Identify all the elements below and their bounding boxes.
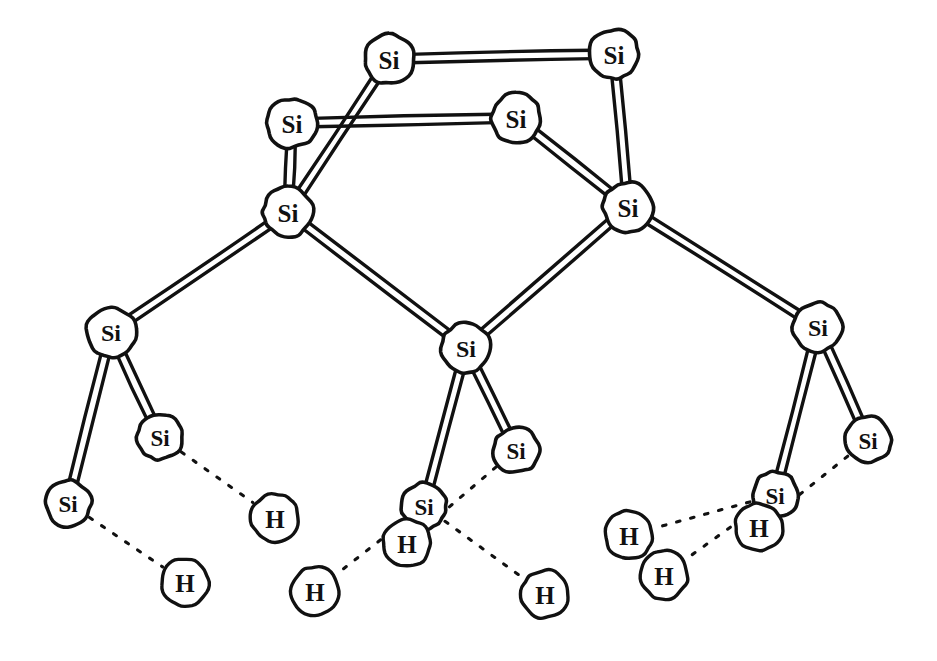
silicon-atom-si-row5-midleft[interactable]: Si: [45, 480, 92, 528]
silicon-atom-si-row4-right[interactable]: Si: [792, 302, 843, 353]
covalent-bond: [116, 348, 157, 422]
atom-circle: [590, 29, 639, 79]
hydrogen-atom-h-right-overlap[interactable]: H: [735, 503, 783, 551]
hydrogen-bond: [181, 452, 253, 503]
atom-circle: [290, 567, 339, 616]
hydrogen-atom-h-left-lower[interactable]: H: [162, 559, 210, 606]
hydrogen-bond: [445, 521, 523, 578]
hydrogen-atom-h-left-upper[interactable]: H: [250, 494, 298, 543]
atom-circle: [162, 559, 210, 606]
silicon-atom-si-row5-center[interactable]: Si: [493, 427, 540, 472]
atom-circle: [493, 427, 540, 472]
atom-circle: [640, 550, 688, 599]
covalent-bond: [612, 74, 631, 188]
hydrogen-bond: [90, 518, 163, 567]
covalent-bond: [529, 127, 615, 198]
covalent-bond: [425, 366, 465, 490]
covalent-bond: [68, 350, 110, 486]
atom-circle: [45, 480, 92, 528]
atom-circle: [136, 415, 182, 460]
silicon-atom-si-top-left[interactable]: Si: [365, 33, 414, 83]
hydrogen-atom-h-center-left[interactable]: H: [290, 567, 339, 616]
hydrogen-atom-h-right-upper[interactable]: H: [605, 511, 652, 559]
atom-circle: [441, 322, 491, 373]
silicon-atom-si-row4-left[interactable]: Si: [86, 307, 137, 358]
atom-layer: SiSiSiSiSiSiSiSiSiSiSiSiSiSiSiHHHHHHHH: [45, 29, 891, 618]
atom-circle: [602, 182, 654, 233]
atom-circle: [86, 307, 137, 358]
covalent-bond: [643, 214, 804, 320]
bond-layer: [68, 50, 864, 578]
hydrogen-atom-h-center-right[interactable]: H: [520, 569, 568, 618]
atom-circle: [250, 494, 298, 543]
covalent-bond: [822, 344, 864, 426]
atom-circle: [520, 569, 568, 618]
silicon-atom-si-top-right[interactable]: Si: [590, 29, 639, 79]
silicon-atom-si-row2-right[interactable]: Si: [491, 92, 541, 143]
atom-circle: [365, 33, 414, 83]
hydrogen-atom-h-center-overlap[interactable]: H: [383, 519, 430, 566]
covalent-bond: [301, 221, 452, 339]
atom-circle: [267, 99, 318, 148]
atom-circle: [605, 511, 652, 559]
silicon-atom-si-row3-right[interactable]: Si: [602, 182, 654, 233]
atom-circle: [735, 503, 783, 551]
silicon-atom-si-row4-center[interactable]: Si: [441, 322, 491, 373]
covalent-bond: [125, 220, 274, 325]
hydrogen-atom-h-right-lower[interactable]: H: [640, 550, 688, 599]
molecule-canvas: SiSiSiSiSiSiSiSiSiSiSiSiSiSiSiHHHHHHHH: [0, 0, 937, 661]
atom-circle: [845, 416, 892, 463]
molecular-structure-diagram: SiSiSiSiSiSiSiSiSiSiSiSiSiSiSiHHHHHHHH: [0, 0, 937, 661]
covalent-bond: [478, 217, 615, 338]
covalent-bond: [471, 364, 512, 436]
covalent-bond: [409, 50, 594, 63]
silicon-atom-si-row2-left[interactable]: Si: [267, 99, 318, 148]
atom-circle: [491, 92, 541, 143]
atom-circle: [383, 519, 430, 566]
silicon-atom-si-row5-right[interactable]: Si: [845, 416, 892, 463]
silicon-atom-si-row5-left[interactable]: Si: [136, 415, 182, 460]
atom-circle: [792, 302, 843, 353]
covalent-bond: [775, 345, 817, 478]
